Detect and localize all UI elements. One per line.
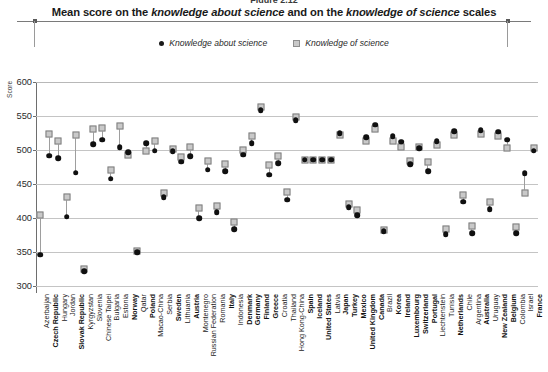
connector-line — [75, 135, 76, 172]
x-axis-label: Hungary — [61, 294, 68, 321]
data-point-knowledge-about-science — [126, 149, 132, 155]
data-point-knowledge-about-science — [337, 130, 343, 136]
y-axis-tick-label: 350 — [16, 247, 32, 257]
x-axis-label: Slovenia — [96, 294, 103, 322]
data-point-knowledge-of-science — [37, 211, 44, 218]
data-point-knowledge-about-science — [152, 148, 158, 154]
data-point-knowledge-about-science — [179, 159, 185, 165]
x-axis-label: Iceland — [316, 294, 323, 319]
data-point-knowledge-of-science — [46, 131, 53, 138]
x-axis-label: United States — [325, 294, 332, 340]
data-point-knowledge-about-science — [90, 141, 96, 147]
data-point-knowledge-about-science — [319, 157, 325, 163]
x-axis-label: Belgium — [510, 294, 517, 322]
plot-area: Score 300350400450500550600 — [36, 82, 538, 292]
data-point-knowledge-about-science — [55, 155, 61, 161]
data-point-knowledge-of-science — [187, 143, 194, 150]
x-axis-label: Romania — [219, 294, 226, 323]
data-point-knowledge-about-science — [416, 145, 422, 151]
data-point-knowledge-of-science — [90, 125, 97, 132]
x-axis-label: Italy — [228, 294, 235, 308]
data-point-knowledge-about-science — [64, 214, 70, 220]
x-axis-label: Qatar — [140, 294, 147, 312]
data-point-knowledge-of-science — [468, 222, 475, 229]
data-point-knowledge-about-science — [531, 148, 537, 154]
data-point-knowledge-about-science — [134, 249, 140, 255]
data-point-knowledge-about-science — [399, 139, 405, 145]
x-axis-label: Japan — [342, 294, 349, 315]
x-axis-label: Finland — [263, 294, 270, 320]
x-axis-label: Czech Republic — [52, 294, 59, 348]
x-axis-label: Austria — [193, 294, 200, 319]
data-point-knowledge-about-science — [460, 199, 466, 205]
title-segment-1: Mean score on the — [52, 6, 152, 18]
y-axis-title: Score — [6, 81, 13, 98]
data-point-knowledge-of-science — [55, 138, 62, 145]
x-axis-label: Azerbaijan — [43, 294, 50, 328]
data-point-knowledge-about-science — [390, 134, 396, 140]
data-point-knowledge-of-science — [486, 198, 493, 205]
legend-entry-knowledge-about-science: Knowledge about science — [159, 38, 267, 48]
legend-entry-knowledge-of-science: Knowledge of science — [293, 38, 389, 48]
data-point-knowledge-about-science — [73, 170, 79, 176]
x-axis-label: Jordan — [69, 294, 76, 316]
title-emphasis-1: knowledge about science — [151, 6, 284, 18]
data-point-knowledge-about-science — [478, 128, 484, 134]
data-point-knowledge-of-science — [143, 147, 150, 154]
data-point-knowledge-about-science — [425, 168, 431, 174]
x-axis-label: Croatia — [281, 294, 288, 317]
x-axis-label: Israel — [527, 294, 534, 312]
data-point-knowledge-about-science — [231, 226, 237, 232]
data-point-knowledge-of-science — [72, 132, 79, 139]
data-point-knowledge-about-science — [487, 206, 493, 212]
data-point-knowledge-about-science — [117, 145, 123, 151]
data-point-knowledge-of-science — [195, 204, 202, 211]
connector-line — [40, 215, 41, 255]
x-axis-label: Poland — [149, 294, 156, 318]
title-segment-3: scales — [460, 6, 497, 18]
x-axis-label: Russian Federation — [210, 294, 217, 356]
figure-page: Figure 2.12 Mean score on the knowledge … — [0, 0, 548, 372]
data-point-knowledge-of-science — [231, 218, 238, 225]
x-axis-label: Luxembourg — [413, 294, 420, 338]
data-point-knowledge-about-science — [346, 204, 352, 210]
data-point-knowledge-about-science — [82, 268, 88, 274]
data-point-knowledge-of-science — [275, 152, 282, 159]
data-point-knowledge-about-science — [443, 232, 449, 238]
x-axis-label: Chile — [466, 294, 473, 310]
data-point-knowledge-about-science — [275, 160, 281, 166]
data-point-knowledge-about-science — [187, 153, 193, 159]
x-axis-label: Spain — [307, 294, 314, 314]
data-point-knowledge-about-science — [223, 168, 229, 174]
data-point-knowledge-of-science — [63, 194, 70, 201]
x-axis-label: Turkey — [351, 294, 358, 317]
x-axis-label: Montenegro — [202, 294, 209, 332]
data-point-knowledge-about-science — [170, 149, 176, 155]
data-point-knowledge-about-science — [363, 134, 369, 140]
data-point-knowledge-about-science — [143, 140, 149, 146]
data-series-layer — [36, 82, 538, 293]
data-point-knowledge-about-science — [205, 167, 211, 173]
x-axis-label: Bulgaria — [113, 294, 120, 320]
data-point-knowledge-of-science — [107, 167, 114, 174]
y-axis-tick-label: 300 — [16, 281, 32, 291]
data-point-knowledge-about-science — [408, 162, 414, 168]
data-point-knowledge-about-science — [214, 209, 220, 215]
x-axis-label: Australia — [483, 294, 490, 325]
x-axis-label: Greece — [272, 294, 279, 318]
data-point-knowledge-of-science — [204, 157, 211, 164]
x-axis-label: Indonesia — [237, 294, 244, 325]
x-axis-label: Brazil — [386, 294, 393, 312]
y-axis-tick-label: 400 — [16, 213, 32, 223]
data-point-knowledge-about-science — [496, 129, 502, 135]
legend-label-of: Knowledge of science — [305, 38, 389, 48]
figure-number: Figure 2.12 — [0, 0, 548, 3]
square-marker-icon — [293, 40, 300, 47]
data-point-knowledge-about-science — [196, 215, 202, 221]
x-axis-label: Tunisia — [448, 294, 455, 317]
figure-title: Mean score on the knowledge about scienc… — [0, 6, 548, 18]
data-point-knowledge-of-science — [521, 189, 528, 196]
y-axis-tick-label: 550 — [16, 111, 32, 121]
data-point-knowledge-about-science — [452, 128, 458, 134]
data-point-knowledge-about-science — [258, 107, 264, 113]
